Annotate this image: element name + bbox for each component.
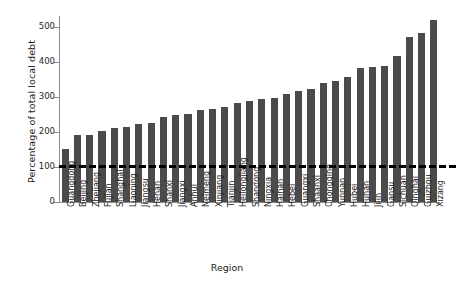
x-tick-label: Yunnan (339, 178, 347, 207)
x-tick-label: Sichuan (400, 175, 408, 207)
plot-area: 0100200300400500 GuangdongBeijingZhejian… (59, 16, 440, 202)
y-axis-line (59, 16, 60, 202)
x-tick-label: Hainan (277, 179, 285, 207)
x-tick-label: Ningxia (265, 177, 273, 207)
x-tick-label: Henan (154, 181, 162, 207)
y-tick-label: 200 (39, 126, 55, 136)
x-tick-label: Xinjiang (216, 175, 224, 207)
x-tick-label: Jilin (375, 193, 383, 207)
x-tick-label: Hebei (289, 184, 297, 207)
x-axis-title: Region (0, 262, 454, 273)
y-tick-label: 300 (39, 91, 55, 101)
x-tick-label: Xizang (437, 180, 445, 207)
x-tick-label: Chongqing (326, 164, 334, 207)
x-tick-label: Guizhou (425, 174, 433, 207)
y-axis-title: Percentage of total local debt (26, 27, 37, 197)
x-tick-label: Beijing (80, 180, 88, 207)
x-tick-label: Gansu (388, 182, 396, 207)
x-tick-label: Zhejiang (93, 172, 101, 207)
x-tick-label: Tianjin (228, 181, 236, 207)
x-tick-label: Hunan (363, 181, 371, 207)
y-tick-label: 0 (50, 196, 55, 206)
x-tick-label: Heilongjiang (240, 157, 248, 207)
x-tick-label: Qinghai (412, 176, 420, 207)
x-tick-label: Shanxi (166, 180, 174, 207)
x-tick-label: Guangdong (68, 161, 76, 207)
x-tick-label: Neimeng (203, 171, 211, 207)
x-tick-label: Jiangxi (179, 180, 187, 207)
x-tick-label: Hubei (351, 184, 359, 207)
x-tick-label: Jiangsu (142, 178, 150, 207)
x-tick-label: Shandong (253, 167, 261, 207)
x-tick-label: Shanghai (117, 170, 125, 207)
x-tick-label: Liaoning (130, 173, 138, 207)
x-tick-label: Guangxi (302, 174, 310, 207)
y-tick-label: 100 (39, 161, 55, 171)
y-tick-label: 400 (39, 56, 55, 66)
x-tick-label: Shaanxi (314, 175, 322, 207)
x-tick-label: Fujian (105, 183, 113, 207)
x-tick-label: Anhui (191, 184, 199, 207)
y-tick-label: 500 (39, 21, 55, 31)
